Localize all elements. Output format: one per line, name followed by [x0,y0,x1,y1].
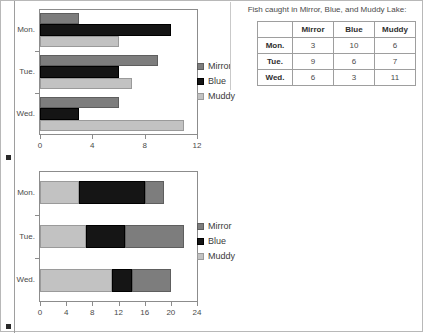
bar-wed-mirror [132,269,171,292]
legend-key-mirror-icon [197,63,204,70]
legend-key-muddy-icon-2 [197,253,204,260]
x-axis-tick [40,135,41,139]
bar-wed-muddy [40,269,112,292]
legend-label-blue-2: Blue [208,237,226,246]
page-left-marker-top [6,155,11,160]
bar-mon-muddy [40,36,119,47]
category-label-mon: Mon. [0,25,35,34]
x-axis-tick-label-20: 20 [161,308,181,317]
x-axis-tick-label-8: 8 [82,308,102,317]
bar-tue-blue [86,225,125,248]
x-axis-tick-label-4: 4 [56,308,76,317]
x-axis-tick-label-4: 4 [82,141,102,150]
page-left-marker-bottom [6,324,11,329]
table-cell-wed-mirror: 6 [293,70,334,86]
x-axis-tick [92,302,93,306]
legend-label-blue: Blue [208,77,226,86]
table-cell-mon-muddy: 6 [375,38,416,54]
category-label-tue: Tue. [0,67,35,76]
table-row-header-tue: Tue. [258,54,293,70]
x-axis-tick-label-0: 0 [30,141,50,150]
table-cell-tue-blue: 6 [334,54,375,70]
x-axis-tick-label-12: 12 [109,308,129,317]
bar-mon-blue [79,181,144,204]
table-col-header-blue: Blue [334,22,375,38]
x-axis-tick-label-8: 8 [135,141,155,150]
legend-item-muddy: Muddy [197,90,235,102]
table-cell-tue-muddy: 7 [375,54,416,70]
legend-item-mirror-2: Mirror [197,220,235,232]
table-col-header-muddy: Muddy [375,22,416,38]
legend-label-mirror: Mirror [208,62,232,71]
table-row-header-wed: Wed. [258,70,293,86]
stacked-bar-chart: Mon.Tue.Wed.04812162024 [19,168,219,328]
table-cell-wed-blue: 3 [334,70,375,86]
grouped-bar-chart: Mon.Tue.Wed.04812 [19,6,219,156]
table-row: Mon. 3 10 6 [258,38,416,54]
legend-key-mirror-icon-2 [197,223,204,230]
x-axis-tick [66,302,67,306]
table-row-header-mon: Mon. [258,38,293,54]
bar-wed-mirror [40,97,119,108]
bar-tue-muddy [40,225,86,248]
x-axis-tick-label-16: 16 [135,308,155,317]
table-cell-tue-mirror: 9 [293,54,334,70]
category-tick [35,51,39,52]
bar-tue-muddy [40,78,132,89]
legend-label-muddy: Muddy [208,92,235,101]
table-col-header-mirror: Mirror [293,22,334,38]
legend-label-mirror-2: Mirror [208,222,232,231]
x-axis-tick [40,302,41,306]
bar-wed-muddy [40,120,184,131]
category-tick [35,215,39,216]
x-axis-tick [197,135,198,139]
category-tick [35,93,39,94]
x-axis-tick [145,135,146,139]
legend-item-blue-2: Blue [197,235,235,247]
bar-mon-muddy [40,181,79,204]
fish-table-title: Fish caught in Mirror, Blue, and Muddy L… [231,5,423,14]
x-axis-tick [145,302,146,306]
table-corner-cell [258,22,293,38]
table-cell-wed-muddy: 11 [375,70,416,86]
bar-wed-blue [40,108,79,119]
category-label-mon: Mon. [0,188,35,197]
fish-table-panel: Fish caught in Mirror, Blue, and Muddy L… [230,2,422,90]
legend-key-blue-icon [197,78,204,85]
legend-label-muddy-2: Muddy [208,252,235,261]
table-header-row: Mirror Blue Muddy [258,22,416,38]
bar-wed-blue [112,269,132,292]
x-axis-tick [92,135,93,139]
legend-key-muddy-icon [197,93,204,100]
x-axis-tick [171,302,172,306]
legend-item-muddy-2: Muddy [197,250,235,262]
x-axis-tick [119,302,120,306]
x-axis-tick-label-24: 24 [187,308,207,317]
bar-tue-mirror [125,225,184,248]
bar-mon-mirror [145,181,165,204]
bar-mon-blue [40,24,171,35]
legend-key-blue-icon-2 [197,238,204,245]
x-axis-tick [197,302,198,306]
table-row: Tue. 9 6 7 [258,54,416,70]
category-tick [35,258,39,259]
category-label-tue: Tue. [0,232,35,241]
stacked-bar-legend: Mirror Blue Muddy [197,220,235,265]
bar-mon-mirror [40,13,79,24]
bar-tue-mirror [40,55,158,66]
bar-tue-blue [40,66,119,77]
category-label-wed: Wed. [0,275,35,284]
table-cell-mon-blue: 10 [334,38,375,54]
x-axis-tick-label-12: 12 [187,141,207,150]
category-label-wed: Wed. [0,109,35,118]
table-cell-mon-mirror: 3 [293,38,334,54]
table-row: Wed. 6 3 11 [258,70,416,86]
fish-data-table: Mirror Blue Muddy Mon. 3 10 6 Tue. 9 6 7 [257,21,416,86]
x-axis-tick-label-0: 0 [30,308,50,317]
